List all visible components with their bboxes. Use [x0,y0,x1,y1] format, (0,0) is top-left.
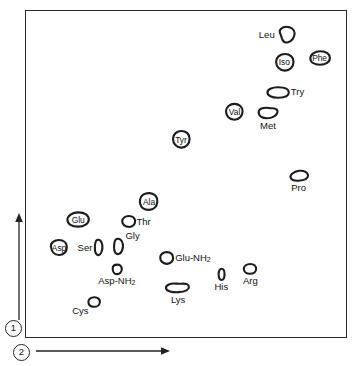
spot-label-ala: Ala [143,198,155,206]
spot-label-lys: Lys [171,295,185,305]
spot-label-phe: Phe [312,54,327,62]
spot-label-glu: Glu [72,216,85,224]
spot-label-his: His [214,282,228,292]
spot-label-thr: Thr [137,217,151,227]
spot-glu-nh2 [159,251,174,265]
spot-ser [94,239,105,256]
spot-label-try: Try [291,87,304,97]
spot-arg [243,263,257,275]
spot-label-tyr: Tyr [175,136,187,144]
spot-label-iso: Iso [279,58,290,66]
spot-leu [276,26,296,44]
axis-2-badge: 2 [13,344,30,361]
spot-thr [121,215,136,228]
spot-label-gly: Gly [125,231,139,241]
spot-label-val: Val [229,108,240,116]
spot-lys [165,281,190,294]
spot-label-arg: Arg [243,276,258,286]
spot-label-met: Met [260,121,276,131]
axis-1-arrow [13,212,25,322]
spot-label-pro: Pro [291,183,306,193]
spot-pro [289,169,309,182]
axis-1-badge: 1 [5,320,22,337]
spot-label-glu-nh2: Glu-NH2 [175,253,211,263]
spot-met [257,106,279,120]
chromatogram-figure: 1 2 LeuIsoPheTryValMetTyrProAlaGluThrAsp… [0,0,362,366]
spot-label-ser: Ser [78,243,93,253]
spot-his [217,268,226,281]
spot-cys [87,296,101,308]
spot-label-cys: Cys [72,306,88,316]
axis-2-arrow [34,342,174,360]
spot-label-asp-nh2: Asp-NH2 [98,276,135,286]
spot-try [266,86,290,99]
spot-asp-nh2 [111,264,123,275]
spot-label-leu: Leu [259,30,275,40]
spot-label-asp: Asp [52,244,66,252]
